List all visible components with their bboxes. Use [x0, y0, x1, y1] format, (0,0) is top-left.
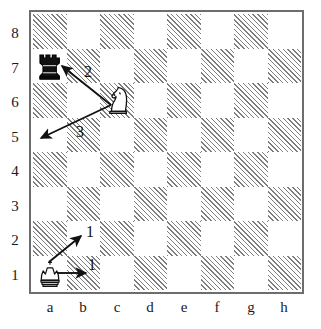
square-e8[interactable] [167, 14, 201, 49]
square-g3[interactable] [234, 187, 268, 222]
square-a6[interactable] [33, 83, 67, 118]
square-e2[interactable] [167, 221, 201, 256]
file-label-c: c [100, 300, 134, 315]
square-a2[interactable] [33, 221, 67, 256]
square-h5[interactable] [268, 118, 302, 153]
square-c2[interactable] [100, 221, 134, 256]
square-a1[interactable] [33, 256, 67, 291]
square-g4[interactable] [234, 152, 268, 187]
file-label-f: f [200, 300, 234, 315]
arrow-king-to-b1-label: 1 [88, 257, 96, 273]
square-a5[interactable] [33, 118, 67, 153]
square-e3[interactable] [167, 187, 201, 222]
arrow-knight-to-a5-label: 3 [76, 124, 84, 140]
square-b2[interactable] [67, 221, 101, 256]
square-d6[interactable] [134, 83, 168, 118]
arrow-knight-to-a7-label: 2 [84, 64, 92, 80]
square-d4[interactable] [134, 152, 168, 187]
square-f7[interactable] [201, 49, 235, 84]
rank-label-4: 4 [6, 164, 24, 179]
square-f8[interactable] [201, 14, 235, 49]
square-d2[interactable] [134, 221, 168, 256]
square-h6[interactable] [268, 83, 302, 118]
square-a7[interactable] [33, 49, 67, 84]
square-d7[interactable] [134, 49, 168, 84]
square-g6[interactable] [234, 83, 268, 118]
square-d8[interactable] [134, 14, 168, 49]
file-label-h: h [267, 300, 301, 315]
square-g2[interactable] [234, 221, 268, 256]
rank-label-2: 2 [6, 233, 24, 248]
square-f5[interactable] [201, 118, 235, 153]
square-h1[interactable] [268, 256, 302, 291]
rank-label-7: 7 [6, 61, 24, 76]
square-e7[interactable] [167, 49, 201, 84]
arrow-king-to-b2-label: 1 [86, 224, 94, 240]
rank-label-8: 8 [6, 26, 24, 41]
file-label-e: e [167, 300, 201, 315]
file-label-d: d [133, 300, 167, 315]
rank-label-6: 6 [6, 95, 24, 110]
square-c3[interactable] [100, 187, 134, 222]
square-f2[interactable] [201, 221, 235, 256]
square-h8[interactable] [268, 14, 302, 49]
square-b3[interactable] [67, 187, 101, 222]
square-e1[interactable] [167, 256, 201, 291]
square-g8[interactable] [234, 14, 268, 49]
square-g1[interactable] [234, 256, 268, 291]
square-b6[interactable] [67, 83, 101, 118]
square-h2[interactable] [268, 221, 302, 256]
rank-label-1: 1 [6, 268, 24, 283]
square-f6[interactable] [201, 83, 235, 118]
square-h7[interactable] [268, 49, 302, 84]
square-c6[interactable] [100, 83, 134, 118]
square-b8[interactable] [67, 14, 101, 49]
square-h4[interactable] [268, 152, 302, 187]
rank-label-3: 3 [6, 199, 24, 214]
square-c1[interactable] [100, 256, 134, 291]
square-c4[interactable] [100, 152, 134, 187]
chess-diagram: 8 7 6 5 4 3 2 1 2311 a b c d e f g h [0, 0, 321, 329]
square-d5[interactable] [134, 118, 168, 153]
square-d1[interactable] [134, 256, 168, 291]
file-label-g: g [234, 300, 268, 315]
square-a8[interactable] [33, 14, 67, 49]
square-a4[interactable] [33, 152, 67, 187]
square-c5[interactable] [100, 118, 134, 153]
square-f1[interactable] [201, 256, 235, 291]
square-g5[interactable] [234, 118, 268, 153]
file-label-b: b [66, 300, 100, 315]
square-f4[interactable] [201, 152, 235, 187]
square-c8[interactable] [100, 14, 134, 49]
square-d3[interactable] [134, 187, 168, 222]
rank-label-5: 5 [6, 130, 24, 145]
square-h3[interactable] [268, 187, 302, 222]
square-e5[interactable] [167, 118, 201, 153]
square-b4[interactable] [67, 152, 101, 187]
board-squares [33, 14, 301, 290]
file-label-a: a [33, 300, 67, 315]
square-e4[interactable] [167, 152, 201, 187]
square-f3[interactable] [201, 187, 235, 222]
square-e6[interactable] [167, 83, 201, 118]
square-a3[interactable] [33, 187, 67, 222]
square-c7[interactable] [100, 49, 134, 84]
square-g7[interactable] [234, 49, 268, 84]
